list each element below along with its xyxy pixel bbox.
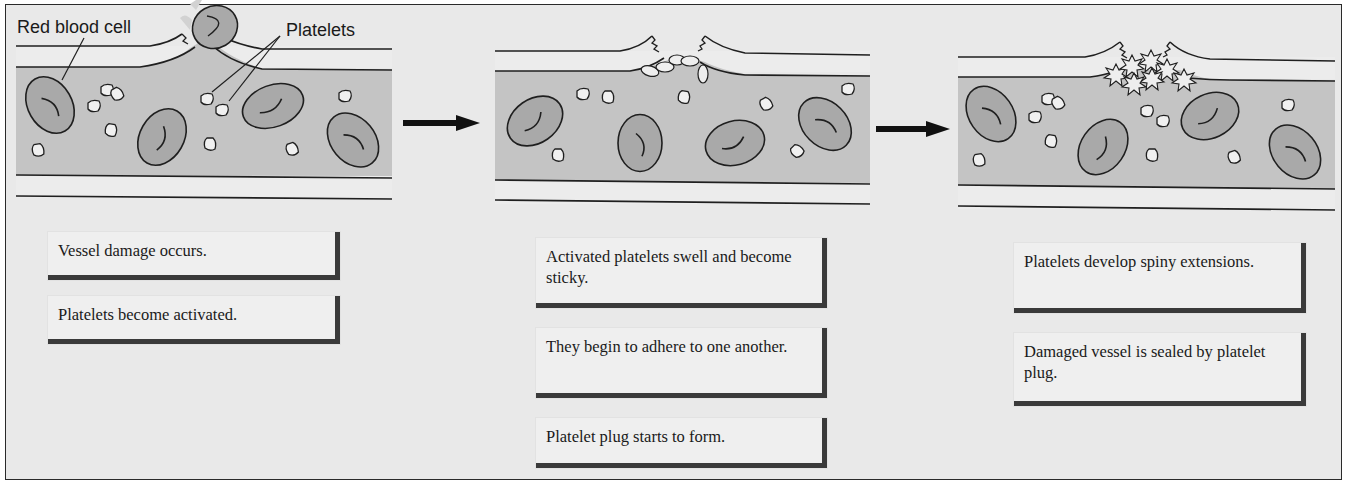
panel-2-platelet-adhesion <box>495 36 870 204</box>
stage-3-step-2: Damaged vessel is sealed by platelet plu… <box>1014 333 1306 406</box>
stage-1-step-2: Platelets become activated. <box>48 296 340 344</box>
arrow-icon <box>403 115 480 131</box>
stage-2-step-1: Activated platelets swell and become sti… <box>536 238 827 308</box>
label-platelets: Platelets <box>286 20 355 41</box>
panel-3-platelet-plug <box>956 42 1335 210</box>
arrow-icon <box>876 121 950 137</box>
stage-3-step-1: Platelets develop spiny extensions. <box>1014 243 1306 313</box>
stage-2-step-3: Platelet plug starts to form. <box>536 418 827 468</box>
stage-2-step-2: They begin to adhere to one another. <box>536 328 827 398</box>
label-red-blood-cell: Red blood cell <box>17 17 131 38</box>
stage-1-step-1: Vessel damage occurs. <box>48 232 340 280</box>
